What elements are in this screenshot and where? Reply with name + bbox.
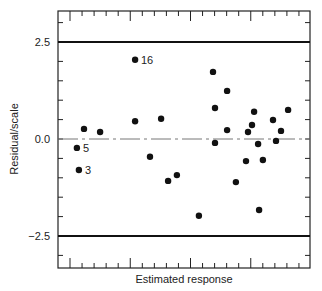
- ytick-label-2.5: 2.5: [35, 36, 50, 48]
- ytick-label-neg-2.5: −2.5: [28, 230, 50, 242]
- data-point: [273, 138, 279, 144]
- data-point: [233, 179, 239, 185]
- data-point: [97, 129, 103, 135]
- data-point: [74, 145, 80, 151]
- data-point: [212, 105, 218, 111]
- data-point: [165, 178, 171, 184]
- data-point: [132, 118, 138, 124]
- point-label-16: 16: [141, 54, 153, 66]
- data-point: [243, 158, 249, 164]
- data-point: [196, 213, 202, 219]
- data-point: [212, 140, 218, 146]
- data-point: [224, 88, 230, 94]
- data-point: [81, 126, 87, 132]
- data-point: [285, 107, 291, 113]
- data-point: [255, 141, 261, 147]
- point-label-5: 5: [83, 142, 89, 154]
- data-point: [158, 116, 164, 122]
- residual-plot: 2.5 0.0 −2.5 Estimated response Residual…: [0, 0, 322, 291]
- data-point: [245, 129, 251, 135]
- ytick-label-0: 0.0: [35, 133, 50, 145]
- data-points: [74, 57, 292, 219]
- data-point: [256, 207, 262, 213]
- data-point: [278, 128, 284, 134]
- data-point: [210, 69, 216, 75]
- data-point: [270, 117, 276, 123]
- data-point: [224, 127, 230, 133]
- data-point: [251, 109, 257, 115]
- x-axis-label: Estimated response: [135, 273, 232, 285]
- data-point: [249, 122, 255, 128]
- point-label-3: 3: [85, 164, 91, 176]
- data-point: [76, 167, 82, 173]
- data-point: [147, 154, 153, 160]
- data-point: [174, 172, 180, 178]
- data-point: [260, 157, 266, 163]
- y-axis-label: Residual/scale: [8, 103, 20, 175]
- data-point: [132, 57, 138, 63]
